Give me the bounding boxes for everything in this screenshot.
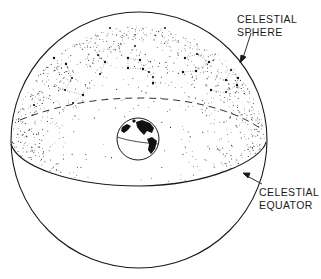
celestial-sphere-label-line2: SPHERE — [237, 26, 297, 39]
celestial-equator-label-line1: CELESTIAL — [259, 186, 319, 199]
constellation-star-patterns — [33, 27, 239, 106]
celestial-equator-label-line2: EQUATOR — [259, 199, 319, 212]
celestial-sphere-label: CELESTIAL SPHERE — [237, 13, 297, 38]
label-arrows — [240, 33, 262, 184]
stippled-northern-hemisphere — [11, 12, 267, 189]
celestial-sphere-label-line1: CELESTIAL — [237, 13, 297, 26]
celestial-equator-label: CELESTIAL EQUATOR — [259, 186, 319, 211]
celestial-sphere-diagram — [0, 0, 321, 279]
earth-globe — [117, 118, 159, 160]
